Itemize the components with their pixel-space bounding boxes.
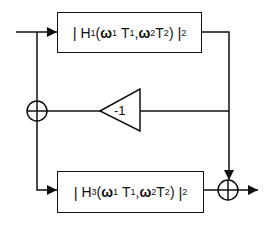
sum-right-icon bbox=[218, 180, 238, 200]
power: 2 bbox=[182, 187, 187, 197]
block-diagram: -1 | H1 ( ω1 T1 , ω2 T2 ) |2 | H3 ( ω1 T… bbox=[0, 0, 271, 226]
t-1: T bbox=[122, 184, 131, 200]
power: 2 bbox=[181, 28, 186, 38]
t-2: T bbox=[155, 25, 164, 41]
omega-1-sub: 1 bbox=[113, 187, 118, 197]
t-1: T bbox=[121, 25, 130, 41]
abs-open: | bbox=[74, 184, 78, 201]
paren-close: ) bbox=[169, 25, 174, 41]
block-h3: | H3 ( ω1 T1 , ω2 T2 ) |2 bbox=[57, 171, 204, 213]
abs-open: | bbox=[73, 24, 77, 41]
h1-output-line bbox=[202, 32, 229, 180]
sum-left-icon bbox=[27, 101, 47, 121]
block-h1: | H1 ( ω1 T1 , ω2 T2 ) |2 bbox=[57, 12, 202, 53]
omega-1-sub: 1 bbox=[112, 28, 117, 38]
t-2: T bbox=[156, 184, 165, 200]
omega-1: ω bbox=[101, 184, 113, 200]
omega-1: ω bbox=[100, 25, 112, 41]
omega-2: ω bbox=[138, 25, 150, 41]
func-name: H bbox=[80, 25, 90, 41]
h3-input-line bbox=[37, 121, 57, 190]
paren-close: ) bbox=[170, 184, 175, 200]
gain-label: -1 bbox=[114, 103, 126, 118]
func-name: H bbox=[81, 184, 91, 200]
omega-2: ω bbox=[139, 184, 151, 200]
